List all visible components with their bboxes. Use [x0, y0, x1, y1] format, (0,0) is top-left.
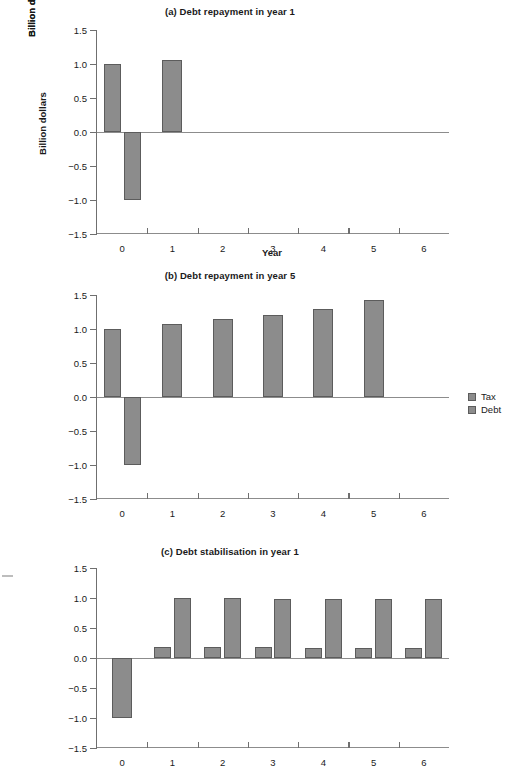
x-axis-tick-label: 3	[270, 757, 275, 768]
panel-a-x-axis-label: Year	[96, 247, 448, 258]
panel-a-plot-area: 1.51.00.50.0−0.5−1.0−1.50123456	[96, 30, 448, 234]
y-axis-tick	[90, 431, 97, 432]
x-axis-tick	[399, 493, 400, 499]
y-axis-tick	[90, 98, 97, 99]
y-axis-tick	[90, 166, 97, 167]
x-axis-tick-label: 2	[220, 508, 225, 519]
y-axis-tick	[90, 30, 97, 31]
y-axis-tick-label: 1.0	[53, 59, 87, 70]
x-axis-tick-label: 5	[371, 508, 376, 519]
panel-b-title: (b) Debt repayment in year 5	[0, 270, 460, 281]
x-axis-tick	[248, 228, 249, 234]
bar-debt-year-3	[274, 599, 291, 658]
y-axis-tick	[90, 132, 97, 133]
zero-baseline	[97, 132, 449, 133]
y-axis-tick	[90, 363, 97, 364]
bar-debt-year-1	[174, 598, 191, 658]
y-axis-tick	[90, 568, 97, 569]
x-axis-tick-label: 1	[170, 508, 175, 519]
bar-tax-year-4	[305, 648, 322, 658]
y-axis-tick	[90, 200, 97, 201]
x-axis-tick	[147, 228, 148, 234]
y-axis-tick-label: 1.0	[53, 324, 87, 335]
x-axis-line	[97, 233, 449, 234]
y-axis-tick	[90, 688, 97, 689]
y-axis-tick	[90, 329, 97, 330]
y-axis-tick-label: 0.0	[53, 653, 87, 664]
bar-debt-year-6	[425, 599, 442, 658]
y-axis-tick-label: 0.5	[53, 358, 87, 369]
x-axis-tick-label: 4	[321, 508, 326, 519]
y-axis-tick	[90, 499, 97, 500]
bar-tax-year-1	[162, 60, 182, 132]
y-axis-tick	[90, 718, 97, 719]
bar-tax-year-4	[313, 309, 333, 397]
x-axis-tick	[147, 742, 148, 748]
bar-tax-year-2	[213, 319, 233, 397]
y-axis-tick-label: 0.0	[53, 392, 87, 403]
panel-a-y-axis-label: Billion dollars	[37, 92, 48, 155]
x-axis-tick-label: 3	[270, 508, 275, 519]
bar-tax-year-1	[154, 647, 171, 658]
bar-tax-year-5	[355, 648, 372, 658]
y-axis-tick	[90, 628, 97, 629]
y-axis-tick-label: −1.5	[53, 229, 87, 240]
y-axis-tick-label: −1.0	[53, 713, 87, 724]
bar-debt-year-4	[325, 599, 342, 658]
x-axis-tick	[248, 493, 249, 499]
x-axis-tick	[198, 493, 199, 499]
legend-item-debt: Debt	[468, 403, 501, 416]
debt-color-swatch-icon	[468, 406, 476, 414]
scan-artifact	[2, 575, 13, 577]
y-axis-tick-label: −1.0	[53, 195, 87, 206]
panel-c-y-axis-label: Billion dollars	[26, 0, 37, 37]
x-axis-tick	[298, 742, 299, 748]
bar-tax-year-0	[104, 64, 121, 132]
chart-panel-c: (c) Debt stabilisation in year 1 1.51.00…	[0, 544, 523, 776]
y-axis-tick	[90, 598, 97, 599]
x-axis-tick	[198, 742, 199, 748]
chart-panel-a: (a) Debt repayment in year 1 Billion dol…	[0, 0, 523, 262]
y-axis-tick-label: 0.5	[53, 623, 87, 634]
x-axis-tick	[348, 493, 349, 499]
x-axis-tick	[399, 228, 400, 234]
legend-item-tax: Tax	[468, 390, 501, 403]
panel-b-plot-area: 1.51.00.50.0−0.5−1.0−1.50123456	[96, 295, 448, 499]
bar-tax-year-2	[204, 647, 221, 658]
x-axis-tick	[348, 228, 349, 234]
zero-baseline	[97, 397, 449, 398]
legend-label-tax: Tax	[481, 392, 496, 402]
y-axis-tick	[90, 658, 97, 659]
y-axis-tick-label: −1.5	[53, 743, 87, 754]
bar-tax-year-1	[162, 324, 182, 397]
x-axis-line	[97, 747, 449, 748]
x-axis-tick-label: 0	[119, 757, 124, 768]
x-axis-tick	[147, 493, 148, 499]
y-axis-tick-label: −1.0	[53, 460, 87, 471]
bar-debt-year-0	[124, 397, 141, 465]
chart-panel-b: (b) Debt repayment in year 5 1.51.00.50.…	[0, 262, 523, 544]
x-axis-tick	[348, 742, 349, 748]
y-axis-tick	[90, 64, 97, 65]
tax-color-swatch-icon	[468, 393, 476, 401]
x-axis-tick	[298, 493, 299, 499]
y-axis-tick-label: 1.0	[53, 593, 87, 604]
bar-tax-year-0	[104, 329, 121, 397]
bar-debt-year-0	[112, 658, 132, 718]
bar-tax-year-3	[255, 647, 272, 658]
bar-debt-year-2	[224, 598, 241, 658]
y-axis-tick	[90, 465, 97, 466]
y-axis-tick-label: 1.5	[53, 25, 87, 36]
y-axis-tick-label: 1.5	[53, 290, 87, 301]
bar-debt-year-0	[124, 132, 141, 200]
y-axis-tick-label: 0.0	[53, 127, 87, 138]
y-axis-tick-label: −0.5	[53, 683, 87, 694]
x-axis-tick-label: 1	[170, 757, 175, 768]
legend-label-debt: Debt	[481, 405, 501, 415]
y-axis-tick	[90, 295, 97, 296]
y-axis-tick-label: 0.5	[53, 93, 87, 104]
chart-legend: Tax Debt	[468, 390, 501, 416]
x-axis-tick-label: 6	[421, 508, 426, 519]
x-axis-tick	[298, 228, 299, 234]
y-axis-tick-label: −1.5	[53, 494, 87, 505]
